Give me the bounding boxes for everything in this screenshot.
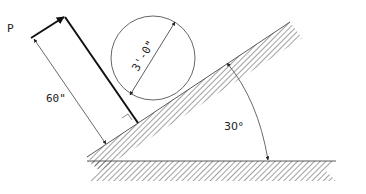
ground-plane	[87, 161, 336, 181]
force-p-arrow	[31, 17, 64, 38]
right-angle-marker	[122, 114, 132, 120]
angle-label: 30°	[224, 120, 244, 133]
force-label: P	[7, 22, 14, 35]
diagram-canvas: P 60" 3'-0" 30°	[0, 0, 366, 194]
lever-length-dimension-line	[34, 39, 106, 144]
lever-length-label: 60"	[46, 92, 66, 105]
diagram-svg: P 60" 3'-0" 30°	[0, 0, 366, 194]
